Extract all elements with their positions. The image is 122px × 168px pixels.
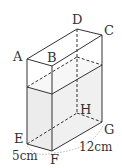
vertex-label-H: H xyxy=(80,103,91,116)
vertex-label-D: D xyxy=(72,13,82,26)
vertex-label-F: F xyxy=(50,153,59,166)
vertex-label-B: B xyxy=(47,51,57,64)
dimension-label-EF: 5cm xyxy=(12,150,38,162)
vertex-label-G: G xyxy=(104,123,114,136)
vertex-label-A: A xyxy=(13,50,22,63)
dimension-label-FG: 12cm xyxy=(79,141,112,153)
vertex-label-E: E xyxy=(14,132,24,145)
vertex-label-C: C xyxy=(104,24,114,37)
edge-top-face xyxy=(27,29,102,66)
water-front-face xyxy=(27,87,52,151)
